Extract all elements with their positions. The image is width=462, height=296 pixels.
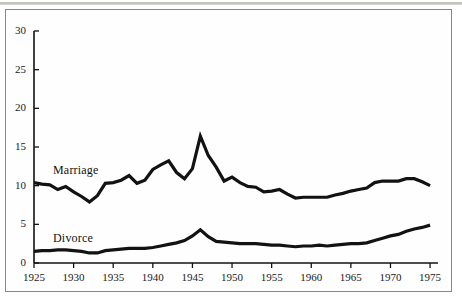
y-tick-label: 10: [4, 180, 26, 191]
series-line-divorce: [34, 225, 430, 253]
x-tick-label: 1975: [410, 272, 450, 283]
y-tick-label: 25: [4, 64, 26, 75]
y-tick-label: 5: [4, 218, 26, 229]
y-tick-label: 30: [4, 25, 26, 36]
x-tick-label: 1925: [14, 272, 54, 283]
series-label-marriage: Marriage: [53, 163, 99, 178]
x-tick-label: 1945: [172, 272, 212, 283]
x-tick-label: 1970: [370, 272, 410, 283]
x-tick-label: 1950: [212, 272, 252, 283]
series-label-divorce: Divorce: [53, 231, 93, 246]
chart-plot-area: [0, 0, 462, 296]
x-tick-label: 1940: [133, 272, 173, 283]
x-tick-label: 1930: [54, 272, 94, 283]
y-tick-label: 20: [4, 102, 26, 113]
figure-canvas: 0510152025301925193019351940194519501955…: [0, 0, 462, 296]
x-tick-label: 1965: [331, 272, 371, 283]
x-tick-label: 1955: [252, 272, 292, 283]
y-tick-label: 0: [4, 257, 26, 268]
y-tick-label: 15: [4, 141, 26, 152]
x-tick-label: 1960: [291, 272, 331, 283]
x-tick-label: 1935: [93, 272, 133, 283]
